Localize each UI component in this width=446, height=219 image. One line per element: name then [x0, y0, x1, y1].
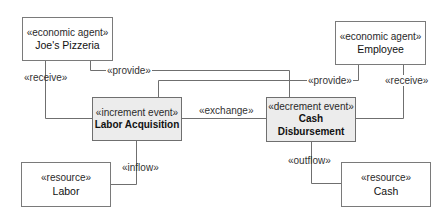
edge-label-outflow: «outflow»	[287, 155, 332, 166]
node-name: Cash	[374, 185, 399, 198]
node-employee[interactable]: «economic agent» Employee	[335, 21, 426, 65]
edge-label-provide-right: «provide»	[307, 75, 353, 86]
stereotype-label: «resource»	[41, 172, 91, 185]
edge-label-inflow: «inflow»	[121, 162, 160, 173]
node-name-line2: Disbursement	[278, 126, 345, 139]
node-name-line1: Cash	[299, 113, 323, 126]
edge-label-provide-top: «provide»	[106, 65, 152, 76]
node-cash[interactable]: «resource» Cash	[341, 162, 431, 207]
node-joes-pizzeria[interactable]: «economic agent» Joe's Pizzeria	[22, 17, 113, 61]
node-name: Joe's Pizzeria	[35, 39, 99, 52]
stereotype-label: «increment event»	[96, 107, 178, 120]
stereotype-label: «decrement event»	[268, 101, 354, 114]
stereotype-label: «economic agent»	[340, 31, 422, 44]
edge-receive-right	[355, 64, 404, 119]
edge-label-exchange: «exchange»	[198, 105, 255, 116]
edge-receive-left	[46, 60, 93, 119]
edge-label-receive-right: «receive»	[384, 75, 429, 86]
node-name: Labor Acquisition	[95, 119, 180, 132]
stereotype-label: «economic agent»	[27, 27, 109, 40]
node-cash-disbursement[interactable]: «decrement event» Cash Disbursement	[266, 97, 356, 142]
node-labor-acquisition[interactable]: «increment event» Labor Acquisition	[92, 97, 182, 141]
node-labor[interactable]: «resource» Labor	[21, 162, 111, 207]
stereotype-label: «resource»	[361, 172, 411, 185]
node-name: Labor	[53, 185, 80, 198]
node-name: Employee	[357, 43, 404, 56]
edge-label-receive-left: «receive»	[23, 72, 68, 83]
